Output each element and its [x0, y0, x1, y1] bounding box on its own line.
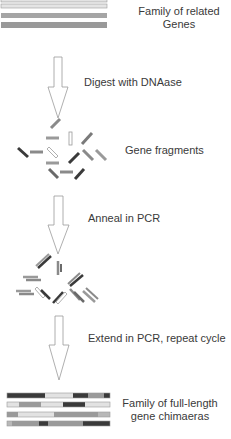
label-line: Family of related	[134, 5, 224, 18]
chimaera-segment	[7, 421, 12, 426]
fragment	[51, 119, 60, 128]
label-line: Genes	[134, 18, 224, 31]
label-chimaeras: Family of full-length gene chimaeras	[120, 397, 220, 423]
annealed-pair	[83, 291, 95, 302]
chimaera-segment	[73, 393, 88, 398]
parent-gene-3	[1, 13, 107, 18]
gene-chimaeras	[7, 393, 110, 426]
parent-gene-4	[1, 22, 107, 28]
chimaera-segment	[54, 412, 98, 417]
chimaera-segment	[7, 393, 45, 398]
annealed-pair	[86, 288, 98, 299]
chimaera-segment	[83, 421, 110, 426]
label-extend: Extend in PCR, repeat cycle	[88, 332, 226, 345]
chimaera-segment	[88, 393, 104, 398]
chimaera-segment	[63, 402, 85, 407]
chimaera-segment	[19, 402, 41, 407]
label-digest: Digest with DNAase	[84, 76, 182, 89]
annealed-fragments	[16, 254, 98, 304]
label-family-related: Family of related Genes	[134, 5, 224, 31]
fragment	[96, 150, 106, 160]
chimaera-segment	[104, 393, 110, 398]
chimaera-segment	[7, 402, 19, 407]
fragment	[75, 169, 84, 179]
chimaera-segment	[39, 421, 48, 426]
parent-gene-2	[1, 4, 107, 8]
label-gene-fragments: Gene fragments	[125, 144, 204, 157]
down-arrow-icon	[48, 196, 69, 254]
chimaera-segment	[12, 421, 39, 426]
chimaera-segment	[98, 412, 110, 417]
gene-fragments	[18, 119, 106, 179]
label-line: gene chimaeras	[120, 410, 220, 423]
chimaera-segment	[85, 402, 110, 407]
parent-genes	[1, 0, 107, 28]
chimaera-segment	[48, 421, 83, 426]
chimaera-segment	[41, 402, 63, 407]
chimaera-segment	[18, 412, 54, 417]
fragment	[18, 148, 28, 157]
label-line: Family of full-length	[120, 397, 220, 410]
parent-gene-1	[1, 0, 107, 2]
label-anneal: Anneal in PCR	[88, 212, 160, 225]
fragment	[82, 133, 92, 144]
fragment	[69, 153, 79, 163]
fragment	[47, 147, 58, 158]
fragment	[49, 169, 58, 178]
chimaera-segment	[45, 393, 73, 398]
down-arrow-icon	[48, 57, 68, 118]
fragment	[83, 150, 93, 160]
down-arrow-icon	[49, 316, 69, 380]
chimaera-segment	[7, 412, 18, 417]
fragment	[69, 132, 72, 145]
